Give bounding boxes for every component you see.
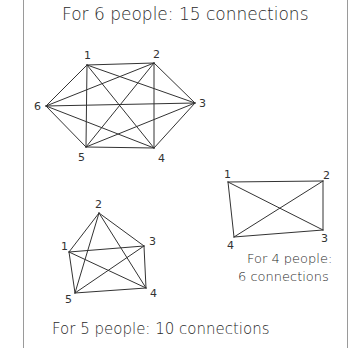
vertex-label: 1 (84, 49, 91, 62)
connection-line (87, 65, 195, 103)
vertex-label: 2 (153, 48, 160, 61)
connection-line (228, 181, 323, 182)
vertex-label: 4 (227, 239, 234, 252)
connection-line (154, 103, 195, 148)
vertex-label: 4 (158, 152, 165, 165)
connection-line (75, 213, 99, 293)
caption-five-people: For 5 people: 10 connections (52, 320, 270, 338)
vertex-label: 3 (199, 97, 206, 110)
connection-line (69, 252, 75, 293)
vertex-label: 5 (78, 151, 85, 164)
caption-four-people-line2: 6 connections (238, 269, 329, 284)
connection-line (46, 103, 195, 106)
connection-line (86, 65, 87, 147)
connection-line (154, 63, 195, 103)
connection-line (75, 288, 146, 293)
vertex-label: 1 (224, 168, 231, 181)
connection-line (99, 213, 144, 246)
vertex-label: 3 (321, 232, 328, 245)
connection-line (228, 182, 234, 237)
connection-line (234, 181, 323, 237)
graph-four-people: 1234 (224, 168, 330, 252)
connection-line (144, 246, 146, 288)
connection-line (86, 147, 154, 148)
graph-five-people: 12345 (61, 198, 157, 306)
vertex-label: 2 (95, 198, 102, 211)
vertex-label: 6 (34, 100, 41, 113)
vertex-label: 4 (150, 287, 157, 300)
connection-line (75, 246, 144, 293)
connection-line (87, 65, 154, 148)
caption-four-people-line1: For 4 people: (247, 251, 332, 266)
connection-line (69, 246, 144, 252)
handshake-diagram: For 6 people: 15 connections For 4 peopl… (0, 0, 364, 348)
vertex-label: 3 (149, 235, 156, 248)
connection-line (86, 103, 195, 147)
vertex-label: 2 (323, 169, 330, 182)
connection-line (69, 213, 99, 252)
connection-line (234, 230, 323, 237)
vertex-label: 1 (61, 240, 68, 253)
connection-line (228, 182, 323, 230)
connection-line (46, 106, 86, 147)
connection-line (46, 65, 87, 106)
graph-six-people: 123456 (34, 48, 206, 165)
vertex-label: 5 (65, 293, 72, 306)
caption-six-people: For 6 people: 15 connections (62, 4, 309, 24)
connection-line (87, 63, 154, 65)
